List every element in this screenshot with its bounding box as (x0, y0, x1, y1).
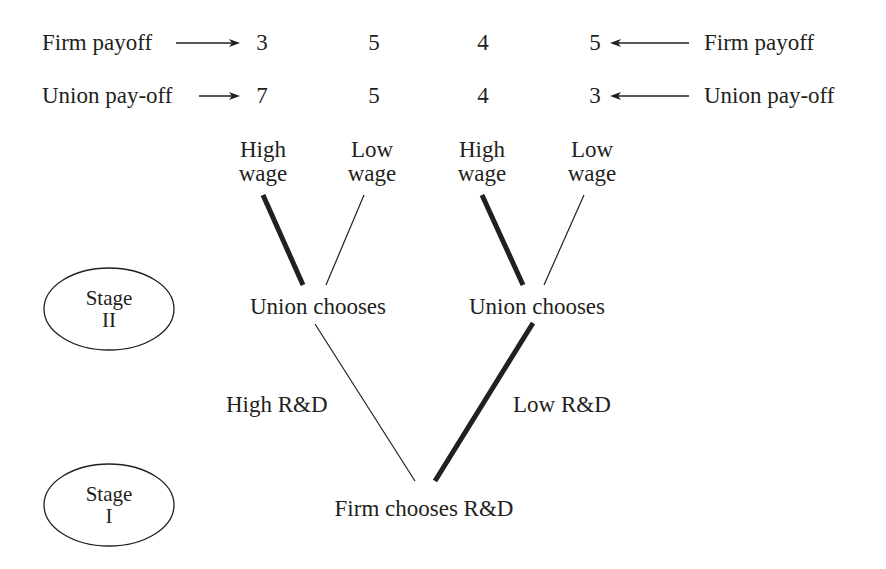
branch-low-wage-right (544, 195, 584, 285)
arrow-left-icon (610, 39, 689, 47)
union-payoff-right-label: Union pay-off (704, 83, 835, 109)
high-rd-label: High R&D (226, 392, 328, 418)
arrow-right-icon (176, 39, 240, 47)
branch-high-rd (315, 324, 415, 481)
firm-payoff-value: 3 (256, 30, 268, 56)
low-wage-label-right: Low wage (568, 138, 617, 186)
branch-high-wage-right (482, 195, 523, 285)
union-payoff-value: 4 (477, 83, 489, 109)
firm-payoff-value: 5 (368, 30, 380, 56)
union-payoff-value: 5 (368, 83, 380, 109)
low-rd-label: Low R&D (513, 392, 611, 418)
stage-1-label: Stage I (86, 483, 133, 527)
firm-payoff-left-label: Firm payoff (42, 30, 152, 56)
high-wage-label-left: High wage (239, 138, 288, 186)
firm-payoff-right-label: Firm payoff (704, 30, 814, 56)
high-wage-label-right: High wage (458, 138, 507, 186)
arrow-left-icon (610, 92, 689, 100)
union-payoff-value: 7 (256, 83, 268, 109)
branch-low-wage-left (326, 195, 364, 285)
union-payoff-value: 3 (589, 83, 601, 109)
stage-2-label: Stage II (86, 287, 133, 331)
branch-high-wage-left (263, 195, 303, 285)
firm-node: Firm chooses R&D (335, 496, 514, 522)
low-wage-label-left: Low wage (348, 138, 397, 186)
union-payoff-left-label: Union pay-off (42, 83, 173, 109)
arrow-right-icon (199, 92, 240, 100)
union-node-left: Union chooses (250, 294, 386, 320)
union-node-right: Union chooses (469, 294, 605, 320)
firm-payoff-value: 5 (589, 30, 601, 56)
firm-payoff-value: 4 (477, 30, 489, 56)
